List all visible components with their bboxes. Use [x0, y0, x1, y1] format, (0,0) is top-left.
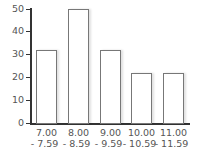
bar [100, 50, 121, 124]
x-tick-label: - 10.59 [122, 138, 158, 149]
bar [36, 50, 57, 124]
bar-chart: 01020304050 7.00- 7.598.00- 8.599.00- 9.… [0, 0, 201, 152]
y-tick-mark [26, 77, 31, 78]
y-tick-mark [26, 100, 31, 101]
y-axis [30, 8, 32, 124]
y-tick-mark [26, 31, 31, 32]
y-tick-label: 50 [2, 4, 24, 14]
x-tick-label: - 11.59 [154, 138, 190, 149]
bar [68, 9, 89, 124]
x-tick-label: 10.00 [124, 127, 160, 138]
x-tick-label: 7.00 [29, 127, 65, 138]
x-tick-label: - 8.59 [59, 138, 95, 149]
y-tick-mark [26, 9, 31, 10]
y-tick-mark [26, 54, 31, 55]
bar [131, 73, 152, 124]
y-tick-label: 0 [2, 118, 24, 128]
x-tick-label: 8.00 [61, 127, 97, 138]
y-tick-label: 30 [2, 49, 24, 59]
y-tick-label: 10 [2, 95, 24, 105]
bar [163, 73, 184, 124]
x-tick-label: 11.00 [156, 127, 192, 138]
y-tick-mark [26, 123, 31, 124]
x-tick-label: - 7.59 [27, 138, 63, 149]
y-tick-label: 40 [2, 26, 24, 36]
y-tick-label: 20 [2, 72, 24, 82]
